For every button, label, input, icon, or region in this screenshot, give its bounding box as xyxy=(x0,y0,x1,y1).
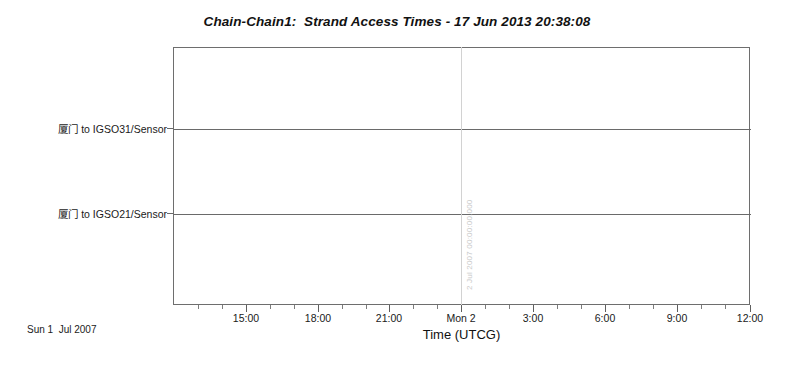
x-axis-minor-tick xyxy=(437,305,438,309)
strand-axis-tick-igso21 xyxy=(167,213,173,214)
x-axis-tick-label: Mon 2 xyxy=(446,312,475,324)
x-axis-tick-label: 15:00 xyxy=(233,312,259,324)
x-axis-minor-tick xyxy=(485,305,486,309)
footer-start-date: Sun 1 Jul 2007 xyxy=(27,324,97,335)
x-axis-minor-tick xyxy=(198,305,199,309)
x-axis-minor-tick xyxy=(270,305,271,309)
x-axis-tick-label: 18:00 xyxy=(305,312,331,324)
x-axis-title: Time (UTCG) xyxy=(173,327,750,342)
x-axis-minor-tick xyxy=(222,305,223,309)
day-boundary-gridline xyxy=(461,47,462,305)
x-axis-minor-tick xyxy=(557,305,558,309)
x-axis-minor-tick xyxy=(413,305,414,309)
x-axis-major-tick xyxy=(461,305,462,312)
y-axis-label: 厦门 to IGSO21/Sensor xyxy=(17,206,167,221)
x-axis-minor-tick xyxy=(725,305,726,309)
x-axis-major-tick xyxy=(677,305,678,312)
strand-row-line-igso31 xyxy=(174,129,751,130)
x-axis-minor-tick xyxy=(653,305,654,309)
x-axis-tick-label: 21:00 xyxy=(376,312,402,324)
x-axis-major-tick xyxy=(246,305,247,312)
x-axis-tick-label: 6:00 xyxy=(595,312,615,324)
x-axis-major-tick xyxy=(389,305,390,312)
x-axis-tick-label: 9:00 xyxy=(667,312,687,324)
x-axis-minor-tick xyxy=(294,305,295,309)
x-axis-tick-label: 12:00 xyxy=(737,312,763,324)
y-axis-labels: 厦门 to IGSO31/Sensor厦门 to IGSO21/Sensor xyxy=(12,0,167,368)
x-axis-major-tick xyxy=(318,305,319,312)
x-axis-minor-tick xyxy=(701,305,702,309)
strand-access-times-chart: Chain-Chain1: Strand Access Times - 17 J… xyxy=(0,0,794,368)
y-axis-label: 厦门 to IGSO31/Sensor xyxy=(17,121,167,136)
x-axis-minor-tick xyxy=(509,305,510,309)
x-axis-major-tick xyxy=(750,305,751,312)
strand-row-line-igso21 xyxy=(174,214,751,215)
day-boundary-gridline-label: 2 Jul 2007 00:00:00.000 xyxy=(465,200,474,290)
x-axis-minor-tick xyxy=(342,305,343,309)
x-axis-major-tick xyxy=(605,305,606,312)
x-axis-tick-label: 3:00 xyxy=(523,312,543,324)
strand-axis-tick-igso31 xyxy=(167,128,173,129)
x-axis-major-tick xyxy=(533,305,534,312)
x-axis-minor-tick xyxy=(629,305,630,309)
x-axis-minor-tick xyxy=(581,305,582,309)
x-axis-minor-tick xyxy=(366,305,367,309)
